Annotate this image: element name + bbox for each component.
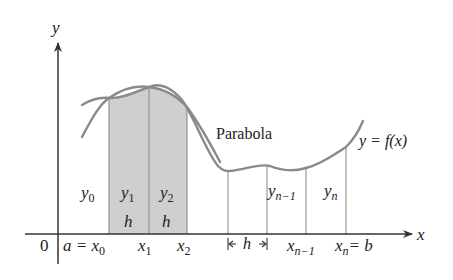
x2-label: x2 xyxy=(176,236,191,258)
xn-minus-1-label: xn−1 xyxy=(286,236,315,258)
xn-equals-b-label: xn= b xyxy=(334,236,373,258)
parabola-label: Parabola xyxy=(216,125,272,142)
h-label-2: h xyxy=(162,212,171,231)
diagram-canvas: y x 0 Parabola y = f(x) y0 y1 y2 yn−1 yn… xyxy=(0,0,453,280)
h-interval-label: h xyxy=(243,235,251,252)
yn-label: yn xyxy=(322,181,338,203)
x1-label: x1 xyxy=(137,236,152,258)
y-axis-label: y xyxy=(50,18,60,37)
y0-label: y0 xyxy=(79,183,95,205)
a-equals-x0-label: a = x0 xyxy=(63,236,105,258)
x-axis-label: x xyxy=(416,225,425,244)
function-label: y = f(x) xyxy=(357,132,407,150)
yn-minus-1-label: yn−1 xyxy=(266,181,296,203)
h-label-1: h xyxy=(124,212,133,231)
origin-label: 0 xyxy=(40,236,49,255)
simpsons-rule-figure: y x 0 Parabola y = f(x) y0 y1 y2 yn−1 yn… xyxy=(0,0,453,280)
